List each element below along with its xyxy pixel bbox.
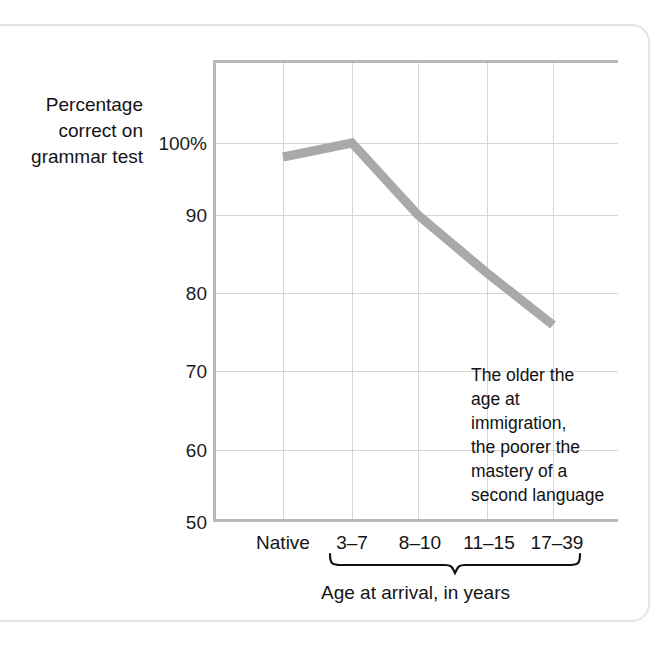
x-tick-label-3-7: 3–7 xyxy=(336,532,368,554)
brace-path xyxy=(330,554,580,573)
series-polyline xyxy=(283,143,553,325)
x-axis-title: Age at arrival, in years xyxy=(213,582,618,604)
x-axis-group-brace xyxy=(300,552,600,582)
y-axis-title-line-3: grammar test xyxy=(8,144,143,170)
y-axis-title: Percentage correct on grammar test xyxy=(8,92,143,170)
y-tick-label-60: 60 xyxy=(141,441,207,460)
x-tick-label-17-39: 17–39 xyxy=(531,532,584,554)
y-tick-label-80: 80 xyxy=(141,284,207,303)
plot-area: The older the age at immigration, the po… xyxy=(213,60,618,522)
y-tick-label-90: 90 xyxy=(141,206,207,225)
x-tick-label-8-10: 8–10 xyxy=(399,532,441,554)
x-tick-label-11-15: 11–15 xyxy=(463,532,514,554)
y-axis-title-line-1: Percentage xyxy=(8,92,143,118)
chart-page: Percentage correct on grammar test 100% … xyxy=(0,0,668,651)
y-axis-tick-labels: 100% 90 80 70 60 50 xyxy=(137,60,207,522)
x-tick-label-native: Native xyxy=(256,532,310,554)
y-axis-title-line-2: correct on xyxy=(8,118,143,144)
chart-annotation: The older the age at immigration, the po… xyxy=(471,363,618,507)
y-tick-label-50: 50 xyxy=(141,513,207,532)
y-tick-label-70: 70 xyxy=(141,362,207,381)
y-tick-label-100: 100% xyxy=(141,134,207,153)
